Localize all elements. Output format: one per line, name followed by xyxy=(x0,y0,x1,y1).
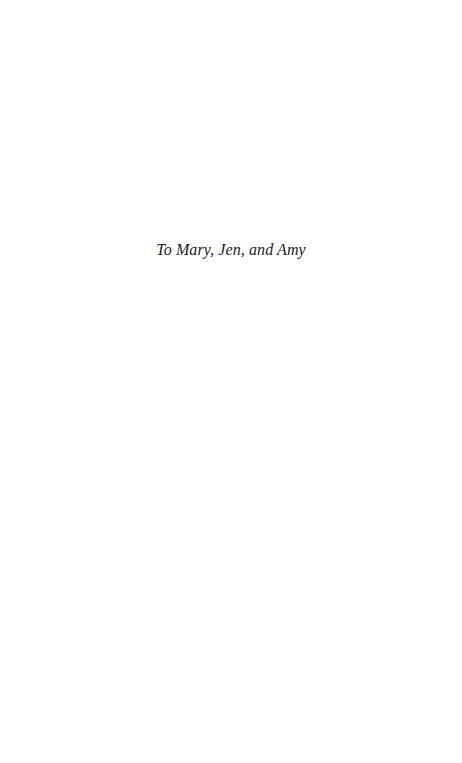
book-page: To Mary, Jen, and Amy xyxy=(0,0,462,763)
dedication-text: To Mary, Jen, and Amy xyxy=(0,240,462,260)
